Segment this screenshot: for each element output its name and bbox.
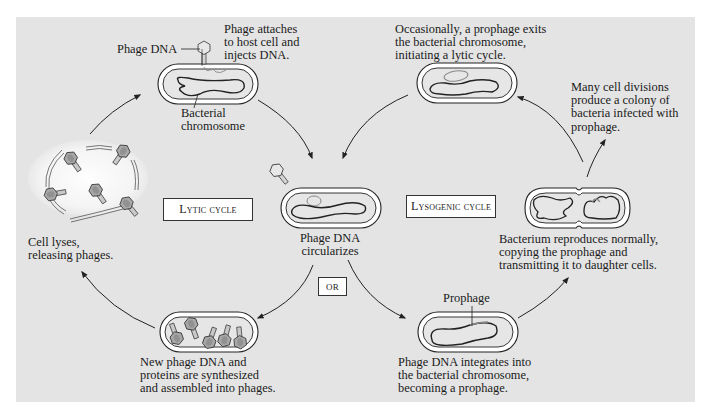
or-label: OR [318,277,347,296]
cell-exit [417,63,517,103]
diagram-artwork [0,0,708,410]
arrow-exit-to-circularize [343,95,408,158]
caption-attach: Phage attaches to host cell and injects … [224,23,299,63]
cell-circularize [268,161,381,228]
arrow-circularize-to-integrate [348,260,405,318]
cell-reproduce [525,188,630,228]
cell-lysed [28,140,148,222]
label-phage-dna: Phage DNA [117,43,177,56]
caption-lyse: Cell lyses, releasing phages. [28,236,113,262]
lysogenic-cycle-label: Lysogenic cycle [406,195,496,218]
arrow-reproduce-to-colony [587,140,605,177]
empty-phage-icon [268,161,292,187]
cell-synthesize [160,312,258,352]
arrow-circularize-to-synthesize [258,265,313,318]
caption-reproduce: Bacterium reproduces normally, copying t… [499,233,658,273]
arrow-attach-to-circularize [258,100,312,158]
label-prophage: Prophage [443,292,490,305]
caption-synthesize: New phage DNA and proteins are synthesiz… [140,356,276,396]
arrow-integrate-to-reproduce [518,278,568,318]
phage-icon [198,41,210,64]
arrow-synthesize-to-lyse [82,272,155,328]
arrow-lyse-to-attach [90,95,140,134]
caption-exit: Occasionally, a prophage exits the bacte… [395,23,546,63]
caption-colony: Many cell divisions produce a colony of … [571,81,678,134]
caption-circularize: Phage DNA circularizes [290,232,370,258]
cell-integrate [418,306,518,352]
lytic-cycle-label: Lytic cycle [163,198,253,221]
label-bacterial-chromosome: Bacterial chromosome [181,107,245,133]
caption-integrate: Phage DNA integrates into the bacterial … [398,356,531,396]
